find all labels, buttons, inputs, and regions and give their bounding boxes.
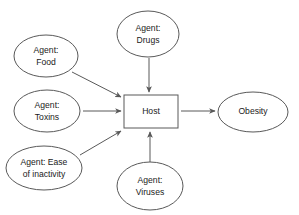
node-agent-food-ellipse [14, 35, 78, 77]
diagram-svg: Agent: Food Agent: Drugs Agent: Toxins A… [0, 0, 299, 215]
node-agent-drugs-label-line1: Agent: [136, 23, 161, 33]
node-agent-ease-of-inactivity[interactable]: Agent: Ease of inactivity [6, 146, 82, 190]
node-agent-food[interactable]: Agent: Food [14, 35, 78, 77]
node-agent-viruses-label-line1: Agent: [138, 175, 163, 185]
node-agent-toxins-label-line2: Toxins [35, 112, 59, 122]
edge-inactivity-to-host [80, 131, 121, 155]
node-agent-drugs-ellipse [117, 11, 179, 57]
node-agent-drugs-label-line2: Drugs [137, 35, 160, 45]
node-agent-toxins[interactable]: Agent: Toxins [14, 90, 80, 132]
node-agent-food-label-line1: Agent: [34, 45, 59, 55]
node-obesity-label: Obesity [238, 106, 268, 116]
node-agent-drugs[interactable]: Agent: Drugs [117, 11, 179, 57]
diagram-canvas: Agent: Food Agent: Drugs Agent: Toxins A… [0, 0, 299, 215]
node-agent-ease-of-inactivity-ellipse [6, 146, 82, 190]
node-agent-viruses-label-line2: Viruses [136, 187, 165, 197]
nodes-group: Agent: Food Agent: Drugs Agent: Toxins A… [6, 11, 288, 210]
node-agent-viruses[interactable]: Agent: Viruses [117, 162, 183, 210]
node-host[interactable]: Host [124, 95, 178, 128]
node-agent-ease-of-inactivity-label-line1: Agent: Ease [21, 157, 68, 167]
edge-food-to-host [72, 72, 121, 97]
node-host-label: Host [142, 106, 160, 116]
node-agent-toxins-label-line1: Agent: [35, 100, 60, 110]
node-agent-ease-of-inactivity-label-line2: of inactivity [23, 169, 66, 179]
node-obesity[interactable]: Obesity [218, 92, 288, 132]
node-agent-viruses-ellipse [117, 162, 183, 210]
node-agent-food-label-line2: Food [36, 57, 56, 67]
node-agent-toxins-ellipse [14, 90, 80, 132]
